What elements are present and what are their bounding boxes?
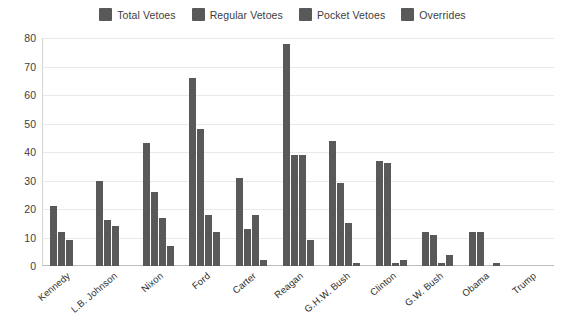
bar-group [42,38,89,266]
bar[interactable] [493,263,500,266]
bar[interactable] [353,263,360,266]
bar[interactable] [345,223,352,266]
legend-item-label: Overrides [419,9,465,21]
bar[interactable] [422,232,429,266]
x-axis-tick-label: Trump [510,270,538,296]
bar[interactable] [197,129,204,266]
bar[interactable] [143,143,150,266]
x-axis-tick-cell: Nixon [135,268,182,325]
x-axis-tick-label: Clinton [368,270,398,298]
x-axis-tick-cell: Ford [182,268,229,325]
bar[interactable] [167,246,174,266]
y-axis-tick-label: 20 [2,203,36,215]
chart-legend: Total VetoesRegular VetoesPocket VetoesO… [0,8,565,21]
bar[interactable] [307,240,314,266]
bar-group [135,38,182,266]
y-axis-tick-label: 40 [2,146,36,158]
bar-group [182,38,229,266]
bar[interactable] [260,260,267,266]
bar-groups [42,38,554,266]
legend-item[interactable]: Overrides [401,8,465,21]
x-axis-tick-cell: Carter [228,268,275,325]
x-axis-tick-label: Ford [190,270,212,291]
bar[interactable] [446,255,453,266]
legend-item-label: Total Vetoes [117,9,175,21]
bar[interactable] [244,229,251,266]
bar[interactable] [376,161,383,266]
veto-bar-chart: Total VetoesRegular VetoesPocket VetoesO… [0,0,565,325]
bar[interactable] [112,226,119,266]
x-axis-tick-labels: KennedyL.B. JohnsonNixonFordCarterReagan… [42,268,554,325]
y-axis-tick-label: 50 [2,118,36,130]
bar[interactable] [283,44,290,266]
x-axis-tick-label: Reagan [272,270,305,300]
plot-area [42,38,554,266]
x-axis-tick-label: Nixon [139,270,165,294]
legend-item[interactable]: Total Vetoes [99,8,175,21]
bar[interactable] [66,240,73,266]
y-axis-tick-label: 10 [2,232,36,244]
bar[interactable] [477,232,484,266]
legend-item-label: Pocket Vetoes [317,9,385,21]
bar-group [368,38,415,266]
y-axis-tick-label: 70 [2,61,36,73]
bar-group [89,38,136,266]
bar[interactable] [104,220,111,266]
bar[interactable] [58,232,65,266]
x-axis-tick-cell: G.W. Bush [414,268,461,325]
bar[interactable] [252,215,259,266]
bar[interactable] [189,78,196,266]
bar-group [507,38,554,266]
legend-swatch-icon [99,8,112,21]
bar[interactable] [96,181,103,267]
bar-group [228,38,275,266]
bar[interactable] [438,263,445,266]
x-axis-tick-label: Carter [231,270,259,296]
bar-group [321,38,368,266]
legend-item[interactable]: Regular Vetoes [192,8,283,21]
bar[interactable] [291,155,298,266]
bar[interactable] [337,183,344,266]
x-axis-tick-cell: Obama [461,268,508,325]
bar[interactable] [151,192,158,266]
bar[interactable] [469,232,476,266]
legend-item[interactable]: Pocket Vetoes [299,8,385,21]
legend-swatch-icon [299,8,312,21]
legend-swatch-icon [401,8,414,21]
x-axis-tick-cell: L.B. Johnson [89,268,136,325]
bar[interactable] [213,232,220,266]
bar[interactable] [236,178,243,266]
y-axis-tick-label: 0 [2,260,36,272]
y-axis-tick-label: 30 [2,175,36,187]
legend-swatch-icon [192,8,205,21]
y-axis-tick-label: 60 [2,89,36,101]
bar[interactable] [205,215,212,266]
bar[interactable] [50,206,57,266]
bar[interactable] [299,155,306,266]
x-axis-tick-cell: G.H.W. Bush [321,268,368,325]
legend-item-label: Regular Vetoes [210,9,283,21]
y-axis-tick-label: 80 [2,32,36,44]
bar[interactable] [329,141,336,266]
bar[interactable] [159,218,166,266]
bar[interactable] [384,163,391,266]
bar[interactable] [400,260,407,266]
bar-group [461,38,508,266]
x-axis-tick-label: Kennedy [36,270,72,303]
bar[interactable] [430,235,437,266]
bar[interactable] [392,263,399,266]
bar-group [414,38,461,266]
bar-group [275,38,322,266]
y-axis-tick-labels: 80706050403020100 [0,38,36,266]
x-axis-tick-cell: Trump [507,268,554,325]
x-axis-tick-label: Obama [460,270,491,299]
